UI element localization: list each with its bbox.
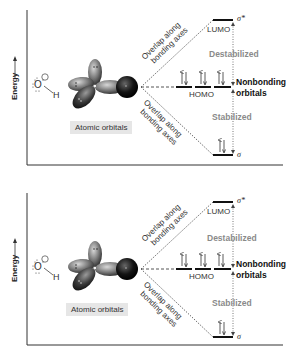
negative-charge-icon <box>42 256 48 262</box>
electron-pair-1 <box>182 254 188 267</box>
sigma-label: σ <box>237 332 241 341</box>
destabilized-label: Destabilized <box>207 233 257 243</box>
atomic-orbitals-graphic <box>67 59 138 113</box>
sigma-star-label: σ* <box>237 196 245 205</box>
o-h-bond <box>44 268 53 275</box>
sigma-star-label: σ* <box>237 14 245 23</box>
atomic-orbitals-label: Atomic orbitals <box>70 121 132 134</box>
energy-axis-label: Energy <box>10 73 19 100</box>
electron-pair-3 <box>219 72 225 85</box>
atomic-orbitals-label: Atomic orbitals <box>66 303 128 316</box>
hydrogen-sphere <box>116 76 138 98</box>
electron-pair-sigma <box>220 322 226 335</box>
energy-arrow-head <box>13 56 17 61</box>
atomic-orbitals-graphic <box>67 241 138 295</box>
energy-axis-label: Energy <box>10 255 19 282</box>
nonbonding-label: Nonbonding orbitals <box>236 259 286 281</box>
molecule-partner-h: H <box>53 90 60 100</box>
molecule-partner-h: H <box>53 272 60 282</box>
lumo-label: LUMO <box>207 25 230 34</box>
electron-pair-3 <box>219 254 225 267</box>
energy-arrow-head <box>13 238 17 243</box>
mo-diagram-top: Energy O H Atomic orbitals Overlap along… <box>0 0 307 177</box>
stabilized-label: Stabilized <box>212 298 252 308</box>
electron-pair-1 <box>182 72 188 85</box>
electron-pair-sigma <box>220 140 226 153</box>
mo-diagram-bottom: Energy O H Atomic orbitals Overlap along… <box>0 180 307 355</box>
molecule-atom: O <box>34 79 42 90</box>
stabilized-label: Stabilized <box>212 112 252 122</box>
hydrogen-sphere <box>116 258 138 280</box>
homo-label: HOMO <box>189 272 214 281</box>
nonbonding-label: Nonbonding orbitals <box>236 77 286 99</box>
o-h-bond <box>44 86 53 93</box>
negative-charge-icon <box>42 74 48 80</box>
electron-pair-2 <box>201 254 207 267</box>
homo-label: HOMO <box>189 90 214 99</box>
destabilized-label: Destabilized <box>209 49 259 59</box>
electron-pair-2 <box>201 72 207 85</box>
molecule-atom: O <box>34 261 42 272</box>
lumo-label: LUMO <box>207 207 230 216</box>
sigma-label: σ <box>237 150 241 159</box>
